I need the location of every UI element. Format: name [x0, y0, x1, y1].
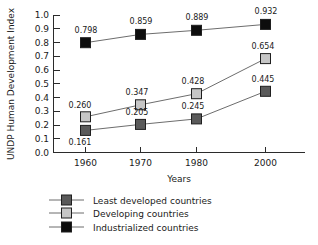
- y-axis: 0.0 0.1 0.2 0.3 0.4 0.5 0.6 0.7 0.8 0.9 …: [6, 7, 60, 160]
- y-tick-label-3: 0.3: [35, 106, 49, 116]
- y-tick-label-4: 0.4: [35, 93, 50, 103]
- data-label-least-developed-2000: 0.445: [252, 75, 275, 84]
- series-industrialized: 0.798 0.859 0.889 0.932: [75, 7, 278, 48]
- y-tick-label-0: 0.0: [35, 148, 50, 158]
- data-label-developing-1960: 0.260: [69, 101, 92, 110]
- data-point-industrialized-1960: [81, 38, 91, 48]
- y-tick-label-2: 0.2: [35, 120, 49, 130]
- legend-label-least-developed: Least developed countries: [93, 196, 212, 206]
- x-axis-title: Years: [166, 174, 191, 184]
- legend: Least developed countries Developing cou…: [49, 195, 212, 233]
- series-least-developed: 0.161 0.205 0.245 0.445: [69, 75, 275, 147]
- x-tick-label-1960: 1960: [74, 158, 97, 168]
- y-tick-label-9: 0.9: [35, 24, 50, 34]
- series-developing: 0.260 0.347 0.428 0.654: [69, 42, 275, 122]
- data-point-developing-1980: [192, 89, 202, 99]
- data-label-developing-1970: 0.347: [126, 88, 149, 97]
- x-tick-label-1970: 1970: [129, 158, 152, 168]
- data-label-industrialized-1970: 0.859: [130, 17, 153, 26]
- series-industrialized-line: [86, 24, 266, 42]
- chart-canvas: 0.0 0.1 0.2 0.3 0.4 0.5 0.6 0.7 0.8 0.9 …: [0, 0, 318, 245]
- data-label-least-developed-1970: 0.205: [126, 108, 149, 117]
- data-label-industrialized-1980: 0.889: [186, 13, 209, 22]
- legend-item-developing[interactable]: Developing countries: [49, 208, 189, 219]
- x-axis: 1960 1970 1980 2000 Years: [54, 147, 306, 184]
- legend-marker-industrialized: [62, 222, 72, 232]
- data-point-developing-1960: [81, 112, 91, 122]
- data-label-industrialized-1960: 0.798: [75, 26, 98, 35]
- y-tick-label-10: 1.0: [35, 10, 50, 20]
- legend-item-industrialized[interactable]: Industrialized countries: [49, 222, 199, 233]
- legend-marker-developing: [62, 208, 72, 218]
- data-label-developing-2000: 0.654: [252, 42, 275, 51]
- y-tick-label-1: 0.1: [35, 134, 49, 144]
- data-point-industrialized-2000: [261, 19, 271, 29]
- data-point-industrialized-1970: [136, 29, 146, 39]
- data-point-developing-2000: [261, 54, 271, 64]
- data-label-developing-1980: 0.428: [182, 77, 205, 86]
- legend-label-industrialized: Industrialized countries: [93, 223, 199, 233]
- x-tick-label-2000: 2000: [254, 158, 277, 168]
- y-tick-label-8: 0.8: [35, 38, 50, 48]
- data-label-least-developed-1960: 0.161: [69, 138, 92, 147]
- y-axis-title: UNDP Human Development Index: [6, 7, 16, 160]
- legend-marker-least-developed: [62, 195, 72, 205]
- x-tick-label-1980: 1980: [185, 158, 208, 168]
- data-point-industrialized-1980: [192, 25, 202, 35]
- data-point-least-developed-1970: [136, 119, 146, 129]
- legend-item-least-developed[interactable]: Least developed countries: [49, 195, 212, 206]
- y-tick-label-5: 0.5: [35, 79, 49, 89]
- data-point-least-developed-1980: [192, 114, 202, 124]
- series-developing-line: [86, 59, 266, 117]
- chart-container: 0.0 0.1 0.2 0.3 0.4 0.5 0.6 0.7 0.8 0.9 …: [0, 0, 318, 245]
- y-tick-label-7: 0.7: [35, 51, 49, 61]
- legend-label-developing: Developing countries: [93, 209, 189, 219]
- y-tick-label-6: 0.6: [35, 65, 50, 75]
- data-label-industrialized-2000: 0.932: [255, 7, 278, 16]
- data-point-least-developed-2000: [261, 86, 271, 96]
- data-label-least-developed-1980: 0.245: [182, 102, 205, 111]
- data-point-least-developed-1960: [81, 125, 91, 135]
